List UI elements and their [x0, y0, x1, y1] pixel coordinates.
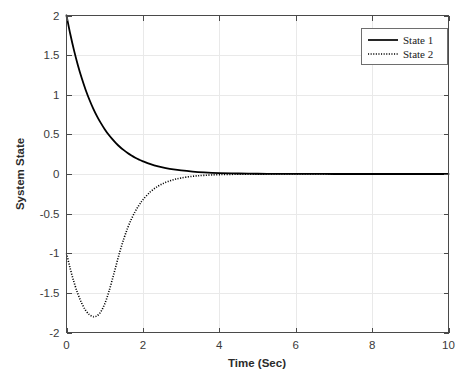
y-tick-label: -2: [49, 327, 59, 339]
y-tick-label: 1.5: [44, 49, 60, 61]
legend-label-state-2: State 2: [403, 48, 433, 60]
line-chart: 0246810 21.510.50-0.5-1-1.5-2 Time (Sec)…: [0, 0, 472, 381]
y-axis-title: System State: [14, 138, 26, 210]
x-tick-label: 4: [216, 339, 223, 351]
x-tick-label: 2: [140, 339, 146, 351]
y-tick-label: 0.5: [44, 128, 60, 140]
legend[interactable]: State 1 State 2: [362, 29, 448, 65]
y-tick-label: 2: [53, 10, 59, 22]
y-tick-label: 0: [53, 168, 59, 180]
y-tick-label: 1: [53, 89, 59, 101]
x-tick-label: 8: [369, 339, 375, 351]
x-axis-title: Time (Sec): [228, 357, 286, 369]
x-tick-label: 10: [442, 339, 455, 351]
figure-canvas: 0246810 21.510.50-0.5-1-1.5-2 Time (Sec)…: [0, 0, 472, 381]
y-tick-label: -1: [49, 247, 59, 259]
legend-label-state-1: State 1: [403, 34, 433, 46]
x-tick-label: 0: [63, 339, 69, 351]
x-tick-label: 6: [292, 339, 298, 351]
y-tick-label: -1.5: [40, 287, 60, 299]
y-tick-label: -0.5: [40, 208, 60, 220]
